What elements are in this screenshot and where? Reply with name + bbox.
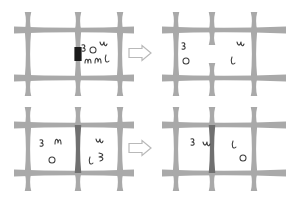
beam-stub-bottom-1 (75, 173, 82, 191)
beam-stub-top-1 (209, 12, 216, 30)
beam-stub-bottom-0 (25, 173, 32, 191)
beam-stub-top-0 (173, 12, 180, 30)
lattice-panel-top-left (14, 12, 134, 96)
beam-stub-bottom-2 (251, 173, 258, 191)
beam-stub-bottom-2 (117, 78, 124, 96)
lattice-diagram (0, 0, 295, 200)
closed-gate-block (74, 47, 81, 61)
lattice-panel-top-right (162, 12, 286, 96)
beam-stub-top-1 (209, 107, 216, 125)
beam-stub-top-2 (117, 12, 124, 30)
beam-stub-bottom-0 (173, 173, 180, 191)
beam-stub-top-1 (75, 12, 82, 30)
beam-stub-bottom-1 (75, 78, 82, 96)
beam-stub-top-1 (75, 107, 82, 125)
beam-stub-top-0 (25, 107, 32, 125)
beam-stub-bottom-2 (117, 173, 124, 191)
lattice-panel-bottom-left (14, 107, 134, 191)
beam-stub-top-2 (117, 107, 124, 125)
beam-stub-top-0 (25, 12, 32, 30)
lattice-panel-bottom-right (162, 107, 286, 191)
beam-stub-top-2 (251, 12, 258, 30)
beam-stub-bottom-0 (25, 78, 32, 96)
beam-stub-bottom-2 (251, 78, 258, 96)
figure-canvas (0, 0, 295, 200)
beam-stub-bottom-0 (173, 78, 180, 96)
beam-stub-top-0 (173, 107, 180, 125)
beam-stub-bottom-1 (209, 78, 216, 96)
beam-stub-top-2 (251, 107, 258, 125)
beam-stub-bottom-1 (209, 173, 216, 191)
